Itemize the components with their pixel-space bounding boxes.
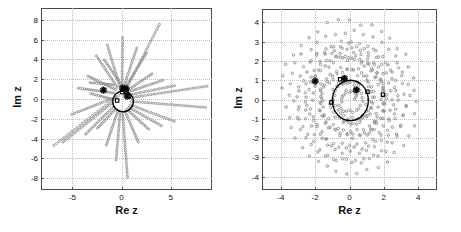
data-point [403,93,406,96]
data-point [367,85,370,88]
data-point [345,158,348,161]
square-marker [330,101,333,104]
data-point [339,45,342,48]
data-point [372,90,375,93]
data-point [391,99,394,102]
data-point [405,53,408,56]
data-point [407,66,410,69]
data-point [356,143,359,146]
data-point [298,106,301,109]
data-point [325,59,328,62]
data-point [314,75,317,78]
data-point [371,24,374,27]
data-point [302,125,305,128]
data-point [380,98,383,101]
data-point [335,70,338,73]
data-point [368,157,371,160]
data-point [309,81,312,84]
data-point [408,135,411,138]
data-point [393,151,396,154]
data-point [366,134,369,137]
data-point [346,68,349,71]
data-point [391,142,394,145]
data-point [385,150,388,153]
data-point [291,72,294,75]
data-point [302,65,305,68]
data-point [334,128,337,131]
data-point [361,148,364,151]
data-point [299,75,302,78]
data-point [363,158,366,161]
data-point [367,145,370,148]
data-point [387,134,390,137]
data-point [348,91,351,94]
data-point [337,146,340,149]
data-point [377,155,380,158]
data-point [304,109,307,112]
data-point [353,84,356,87]
data-point [328,66,331,69]
data-point [331,52,334,55]
data-point [313,69,316,72]
data-point [355,172,358,175]
data-point [294,137,297,140]
data-point [313,133,316,136]
data-point [382,82,385,85]
data-point [358,42,361,45]
data-point [308,155,311,158]
data-point [413,112,416,115]
data-point [310,76,313,79]
data-point [321,92,324,95]
data-point [356,74,359,77]
data-point [397,99,400,102]
data-point [373,145,376,148]
data-point [360,162,363,165]
data-point [355,55,358,58]
data-point [340,40,343,43]
data-point [322,99,325,102]
data-point [284,63,287,66]
data-point [285,106,288,109]
data-point [360,92,363,95]
data-point [388,119,391,122]
data-point [324,35,327,38]
data-point [297,85,300,88]
data-point [349,150,352,153]
data-point [360,71,363,74]
data-point [339,66,342,69]
data-point [359,104,362,107]
data-point [351,57,354,60]
data-point [345,110,348,113]
data-point [351,161,354,164]
data-point [340,98,343,101]
data-point [304,117,307,120]
data-point [324,65,327,68]
data-point [300,53,303,56]
data-point [325,48,328,51]
data-point [355,45,358,48]
data-point [393,86,396,89]
data-point [390,89,393,92]
data-point [308,88,311,91]
data-point [386,141,389,144]
data-point [367,51,370,54]
data-point [301,146,304,149]
data-point [402,144,405,147]
data-point [382,117,385,120]
data-point [348,56,351,59]
data-point [297,108,300,111]
data-point [292,54,295,57]
data-point [389,109,392,112]
data-point [365,149,368,152]
data-point [362,75,365,78]
data-point [367,45,370,48]
data-point [361,97,364,100]
data-point [351,137,354,140]
data-point [331,75,334,78]
data-point [363,132,366,135]
data-point [320,83,323,86]
data-point [385,97,388,100]
data-point [381,55,384,58]
data-point [364,142,367,145]
data-point [332,158,335,161]
